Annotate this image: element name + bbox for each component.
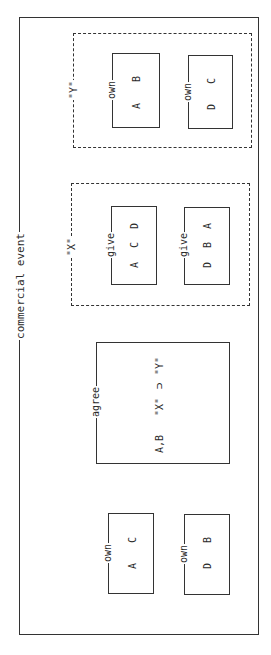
item-b: B xyxy=(203,241,213,249)
item-a: A xyxy=(132,102,142,110)
agree-label: agree xyxy=(91,386,101,418)
item-d: D xyxy=(207,103,217,111)
own-label: own xyxy=(103,543,113,563)
give-label: give xyxy=(106,232,116,258)
item-d: D xyxy=(203,562,213,570)
agree-parties: A,B xyxy=(155,434,165,454)
commercial-event-label: commercial event xyxy=(16,232,26,340)
item-a: A xyxy=(130,261,140,269)
item-a: A xyxy=(128,562,138,570)
own-box-db xyxy=(184,514,230,595)
item-d: D xyxy=(130,222,140,230)
agree-x: "X" xyxy=(155,397,165,417)
own-label: own xyxy=(107,80,117,100)
own-box-dc xyxy=(188,55,233,129)
item-a: A xyxy=(203,222,213,230)
item-b: B xyxy=(132,75,142,83)
own-label: own xyxy=(183,82,193,102)
item-c: C xyxy=(207,77,217,85)
own-box-ac xyxy=(108,513,154,594)
own-box-ab xyxy=(112,53,160,128)
agree-y: "Y" xyxy=(155,356,165,376)
item-c: C xyxy=(130,241,140,249)
group-x-label: "X" xyxy=(67,237,77,257)
group-y-label: "Y" xyxy=(69,80,79,100)
item-b: B xyxy=(203,536,213,544)
superset-symbol: ⊃ xyxy=(155,382,165,391)
item-d: D xyxy=(203,261,213,269)
own-label: own xyxy=(179,544,189,564)
give-label: give xyxy=(179,232,189,258)
item-c: C xyxy=(128,536,138,544)
